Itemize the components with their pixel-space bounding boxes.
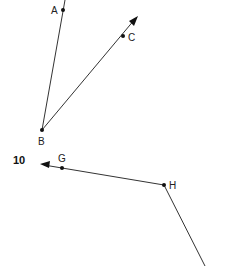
label-c: C [128, 32, 135, 43]
point-g [60, 166, 64, 170]
label-a: A [51, 5, 58, 16]
geometry-diagram: A B C 10 G H [0, 0, 227, 266]
problem-number: 10 [13, 154, 25, 166]
point-b [40, 128, 44, 132]
label-g: G [58, 153, 66, 164]
arrowhead-icon [40, 161, 50, 168]
point-h [162, 183, 166, 187]
point-a [61, 8, 65, 12]
label-b: B [38, 136, 45, 147]
point-c [121, 34, 125, 38]
angle-h-figure: G H [40, 153, 205, 266]
ray-ba [42, 0, 65, 130]
label-h: H [169, 180, 176, 191]
ray-h-down [164, 185, 205, 266]
angle-abc-figure: A B C [38, 0, 138, 147]
